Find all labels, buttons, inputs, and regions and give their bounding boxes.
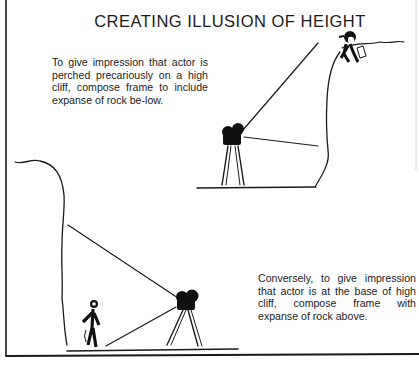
page-title: CREATING ILLUSION OF HEIGHT <box>80 12 380 31</box>
sightline-upper <box>243 43 318 130</box>
frame-bottom-border <box>6 354 419 356</box>
sightline-lower <box>244 137 318 146</box>
caption-bottom: Conversely, to give impression that acto… <box>258 272 416 322</box>
movie-camera-icon-top <box>222 123 244 145</box>
cliff-face-left <box>15 160 67 345</box>
caption-top: To give impression that actor is perched… <box>52 56 208 106</box>
tripod-leg-left-bottom <box>167 310 183 345</box>
sightline-lower-bottom <box>106 307 176 346</box>
actor-figure-top <box>339 31 366 62</box>
ground-line-top <box>197 187 316 188</box>
ground-line-bottom <box>67 349 238 351</box>
document-page: CREATING ILLUSION OF HEIGHT To give impr… <box>0 0 419 370</box>
actor-figure-bottom <box>83 300 99 347</box>
movie-camera-icon-bottom <box>176 290 199 311</box>
sightline-upper-bottom <box>68 225 178 298</box>
cliff-face-right <box>315 52 340 187</box>
